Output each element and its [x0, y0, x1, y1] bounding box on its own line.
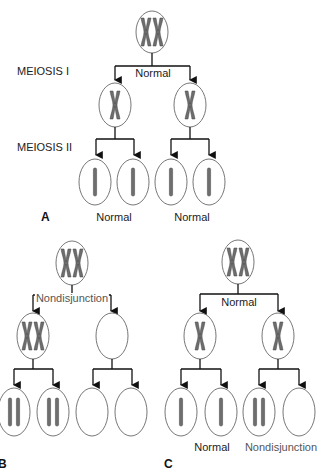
meiosis-2-branch — [96, 127, 209, 155]
panel-c-result-left: Normal — [194, 442, 229, 453]
gamete — [193, 159, 225, 205]
daughter-cell-empty — [96, 313, 128, 359]
panel-c-result-right: Nondisjunction — [245, 442, 317, 453]
panel-b — [0, 241, 147, 436]
gamete — [205, 388, 237, 436]
daughter-cell — [17, 313, 49, 359]
gamete — [0, 388, 30, 436]
gamete — [117, 159, 149, 205]
daughter-cell — [184, 313, 216, 359]
gamete — [79, 159, 111, 205]
meiosis-2-branch — [181, 359, 299, 385]
panel-a-result-right: Normal — [174, 212, 209, 223]
gamete — [155, 159, 187, 205]
parent-cell — [136, 11, 168, 53]
gamete-empty — [115, 388, 147, 436]
gamete — [165, 388, 197, 436]
panel-a-letter: A — [41, 211, 50, 223]
panel-b-meiosis-1-outcome: Nondisjunction — [35, 293, 109, 304]
gamete — [37, 388, 69, 436]
parent-cell — [222, 240, 254, 284]
gamete-disomic — [243, 388, 275, 436]
panel-c-letter: C — [164, 458, 173, 470]
gamete-empty — [76, 388, 108, 436]
panel-c — [165, 240, 315, 436]
daughter-cell — [262, 313, 294, 359]
panel-a-result-left: Normal — [96, 212, 131, 223]
panel-c-meiosis-1-outcome: Normal — [221, 297, 256, 308]
daughter-cell — [174, 83, 206, 127]
panel-a — [79, 11, 225, 205]
meiosis-1-label: MEIOSIS I — [17, 66, 69, 77]
meiosis-2-branch — [14, 359, 132, 385]
gamete-empty — [283, 388, 315, 436]
panel-b-letter: B — [0, 458, 7, 470]
parent-cell — [56, 241, 88, 285]
daughter-cell — [99, 83, 131, 127]
meiosis-2-label: MEIOSIS II — [17, 142, 72, 153]
panel-a-meiosis-1-outcome: Normal — [135, 68, 170, 79]
